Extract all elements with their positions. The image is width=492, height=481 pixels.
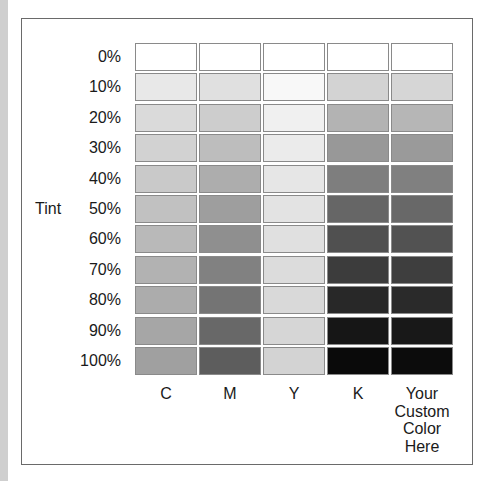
column-label-custom: YourCustomColorHere [391, 385, 453, 455]
swatch-y-90pct [263, 317, 325, 345]
swatch-c-70pct [135, 256, 197, 284]
swatch-c-0pct [135, 43, 197, 71]
swatch-c-40pct [135, 165, 197, 193]
column-label-y: Y [263, 385, 325, 403]
column-label-line: Here [391, 438, 453, 456]
swatch-c-20pct [135, 104, 197, 132]
row-label-80pct: 80% [60, 286, 121, 314]
column-label-line: Color [391, 420, 453, 438]
swatch-c-30pct [135, 134, 197, 162]
column-label-line: C [135, 385, 197, 403]
row-label-60pct: 60% [60, 225, 121, 253]
swatch-k-30pct [327, 134, 389, 162]
swatch-custom-50pct [391, 195, 453, 223]
swatch-k-90pct [327, 317, 389, 345]
row-label-50pct: 50% [60, 195, 121, 223]
swatch-k-20pct [327, 104, 389, 132]
swatch-custom-30pct [391, 134, 453, 162]
swatch-custom-20pct [391, 104, 453, 132]
swatch-y-10pct [263, 73, 325, 101]
swatch-m-10pct [199, 73, 261, 101]
left-edge-strip [0, 0, 8, 481]
swatch-m-50pct [199, 195, 261, 223]
row-label-20pct: 20% [60, 104, 121, 132]
swatch-c-100pct [135, 347, 197, 375]
swatch-c-10pct [135, 73, 197, 101]
swatch-custom-70pct [391, 256, 453, 284]
swatch-y-50pct [263, 195, 325, 223]
swatch-y-0pct [263, 43, 325, 71]
swatch-custom-100pct [391, 347, 453, 375]
swatch-c-80pct [135, 286, 197, 314]
swatch-y-40pct [263, 165, 325, 193]
swatch-m-80pct [199, 286, 261, 314]
row-label-30pct: 30% [60, 134, 121, 162]
swatch-m-100pct [199, 347, 261, 375]
swatch-y-30pct [263, 134, 325, 162]
swatch-m-20pct [199, 104, 261, 132]
swatch-k-60pct [327, 225, 389, 253]
row-label-70pct: 70% [60, 256, 121, 284]
column-label-m: M [199, 385, 261, 403]
swatch-y-20pct [263, 104, 325, 132]
swatch-c-50pct [135, 195, 197, 223]
swatch-m-30pct [199, 134, 261, 162]
swatch-k-0pct [327, 43, 389, 71]
swatch-m-40pct [199, 165, 261, 193]
row-label-40pct: 40% [60, 165, 121, 193]
swatch-custom-80pct [391, 286, 453, 314]
swatch-y-80pct [263, 286, 325, 314]
swatch-m-70pct [199, 256, 261, 284]
swatch-m-0pct [199, 43, 261, 71]
column-label-line: M [199, 385, 261, 403]
swatch-m-60pct [199, 225, 261, 253]
swatch-k-50pct [327, 195, 389, 223]
swatch-y-60pct [263, 225, 325, 253]
tint-axis-label: Tint [35, 195, 61, 223]
row-label-90pct: 90% [60, 317, 121, 345]
swatch-y-70pct [263, 256, 325, 284]
swatch-custom-40pct [391, 165, 453, 193]
swatch-custom-0pct [391, 43, 453, 71]
swatch-k-40pct [327, 165, 389, 193]
row-label-10pct: 10% [60, 73, 121, 101]
swatch-k-70pct [327, 256, 389, 284]
swatch-m-90pct [199, 317, 261, 345]
row-label-100pct: 100% [60, 347, 121, 375]
column-label-k: K [327, 385, 389, 403]
swatch-c-90pct [135, 317, 197, 345]
row-label-0pct: 0% [60, 43, 121, 71]
column-label-line: Custom [391, 403, 453, 421]
swatch-custom-90pct [391, 317, 453, 345]
swatch-y-100pct [263, 347, 325, 375]
swatch-custom-10pct [391, 73, 453, 101]
swatch-k-80pct [327, 286, 389, 314]
column-label-c: C [135, 385, 197, 403]
column-label-line: Your [391, 385, 453, 403]
column-label-line: Y [263, 385, 325, 403]
swatch-c-60pct [135, 225, 197, 253]
column-label-line: K [327, 385, 389, 403]
swatch-k-10pct [327, 73, 389, 101]
swatch-custom-60pct [391, 225, 453, 253]
swatch-k-100pct [327, 347, 389, 375]
